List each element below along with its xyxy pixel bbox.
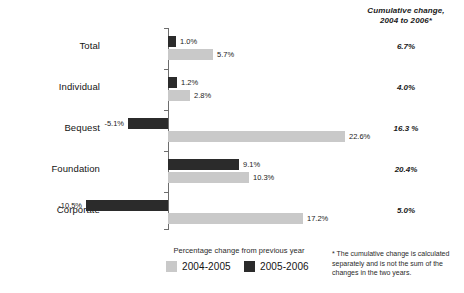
cumulative-value-foundation: 20.4% xyxy=(352,165,460,174)
chart-container: Cumulative change, 2004 to 2006* Total 1… xyxy=(0,0,464,293)
legend-swatch-icon-2004-2005 xyxy=(166,261,177,272)
chart-row-total: Total 1.0% 5.7% 6.7% xyxy=(0,28,464,69)
bar-total-2004-2005 xyxy=(168,49,213,60)
chart-row-individual: Individual 1.2% 2.8% 4.0% xyxy=(0,69,464,110)
bar-foundation-2004-2005 xyxy=(168,172,249,183)
legend-swatch-icon-2005-2006 xyxy=(244,261,255,272)
bar-individual-2005-2006 xyxy=(168,77,177,88)
legend-items: 2004-2005 2005-2006 xyxy=(166,261,316,275)
bar-bequest-2004-2005 xyxy=(168,131,345,142)
bar-value-foundation-2005-2006: 9.1% xyxy=(243,159,260,170)
bar-total-2005-2006 xyxy=(168,36,176,47)
bar-foundation-2005-2006 xyxy=(168,159,239,170)
chart-legend: Percentage change from previous year 200… xyxy=(166,246,316,275)
cumulative-value-corporate: 5.0% xyxy=(352,206,460,215)
bar-bequest-2005-2006 xyxy=(128,118,168,129)
chart-row-foundation: Foundation 9.1% 10.3% 20.4% xyxy=(0,151,464,192)
bar-corporate-2005-2006 xyxy=(86,200,168,211)
bar-value-individual-2004-2005: 2.8% xyxy=(194,90,211,101)
legend-entry-2004-2005[interactable]: 2004-2005 xyxy=(166,261,231,272)
cumulative-value-bequest: 16.3 % xyxy=(352,124,460,133)
bar-value-total-2005-2006: 1.0% xyxy=(180,36,197,47)
chart-row-bequest: Bequest -5.1% 22.6% 16.3 % xyxy=(0,110,464,151)
chart-row-corporate: Corporate -10.5% 17.2% 5.0% xyxy=(0,192,464,233)
bar-value-corporate-2004-2005: 17.2% xyxy=(307,213,328,224)
bar-corporate-2004-2005 xyxy=(168,213,303,224)
bar-value-individual-2005-2006: 1.2% xyxy=(181,77,198,88)
cumulative-header-line1: Cumulative change, xyxy=(352,6,460,16)
chart-footnote: * The cumulative change is calculated se… xyxy=(332,249,460,278)
plot-area: Total 1.0% 5.7% 6.7% Individual 1.2% 2.8… xyxy=(0,24,464,232)
legend-entry-2005-2006[interactable]: 2005-2006 xyxy=(244,261,309,272)
cumulative-change-header: Cumulative change, 2004 to 2006* xyxy=(352,6,460,26)
bar-value-foundation-2004-2005: 10.3% xyxy=(253,172,274,183)
legend-label-2004-2005: 2004-2005 xyxy=(182,261,231,272)
legend-label-2005-2006: 2005-2006 xyxy=(260,261,309,272)
bar-value-total-2004-2005: 5.7% xyxy=(217,49,234,60)
bar-individual-2004-2005 xyxy=(168,90,190,101)
cumulative-value-total: 6.7% xyxy=(352,42,460,51)
bar-value-corporate-2005-2006: -10.5% xyxy=(42,200,82,211)
legend-title: Percentage change from previous year xyxy=(166,246,312,255)
cumulative-value-individual: 4.0% xyxy=(352,83,460,92)
bar-value-bequest-2005-2006: -5.1% xyxy=(88,118,124,129)
